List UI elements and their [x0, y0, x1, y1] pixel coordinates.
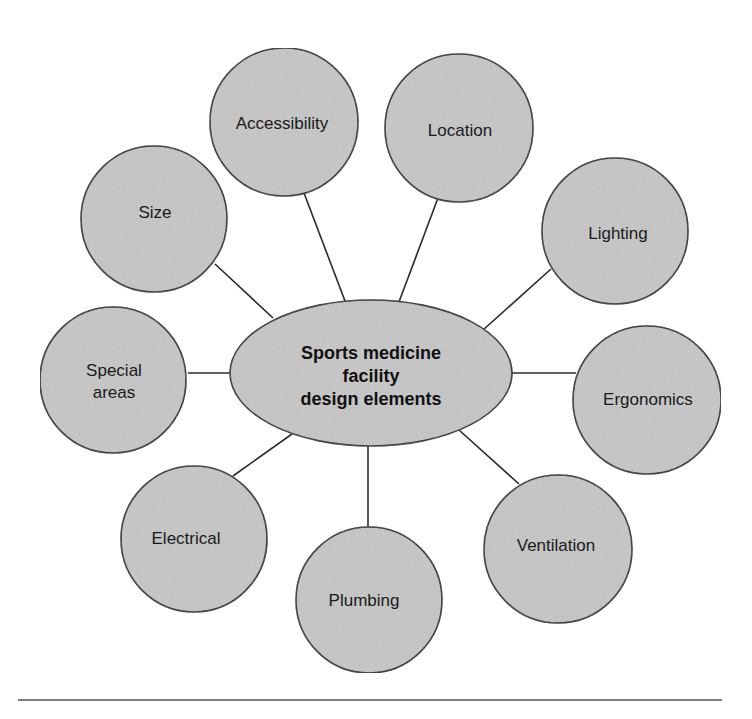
center-title-line3: design elements: [300, 389, 441, 409]
connector-electrical: [233, 434, 292, 476]
connector-lighting: [483, 269, 551, 330]
label-ergonomics: Ergonomics: [603, 390, 693, 409]
label-special-areas-line2: areas: [93, 383, 136, 402]
center-title-line1: Sports medicine: [301, 343, 441, 363]
label-location: Location: [428, 121, 492, 140]
node-special-areas: [40, 307, 186, 453]
label-lighting: Lighting: [588, 224, 648, 243]
label-plumbing: Plumbing: [329, 591, 400, 610]
center-title-line2: facility: [342, 366, 399, 386]
connector-size: [215, 264, 273, 318]
label-special-areas-line1: Special: [86, 361, 142, 380]
connector-accessibility: [304, 193, 345, 301]
label-accessibility: Accessibility: [236, 114, 329, 133]
mind-map-diagram: Accessibility Location Size Lighting Spe…: [0, 0, 752, 719]
label-electrical: Electrical: [152, 529, 221, 548]
label-ventilation: Ventilation: [517, 536, 595, 555]
label-size: Size: [138, 203, 171, 222]
connector-ventilation: [459, 430, 519, 484]
connector-location: [399, 198, 438, 302]
